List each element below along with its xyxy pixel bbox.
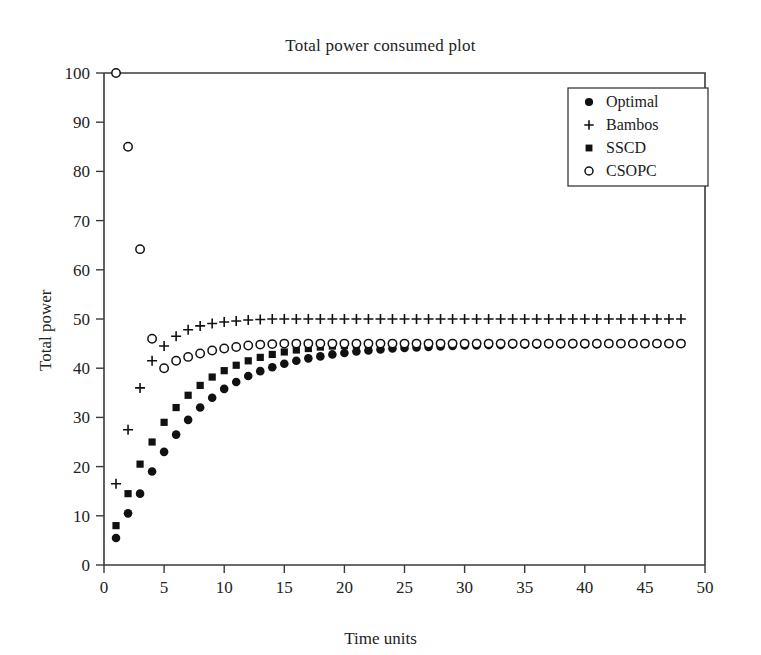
svg-text:20: 20 — [336, 578, 353, 597]
svg-text:40: 40 — [576, 578, 593, 597]
svg-text:40: 40 — [73, 359, 90, 378]
svg-text:0: 0 — [100, 578, 109, 597]
svg-text:70: 70 — [73, 212, 90, 231]
svg-text:60: 60 — [73, 261, 90, 280]
svg-text:10: 10 — [216, 578, 233, 597]
svg-text:15: 15 — [276, 578, 293, 597]
svg-text:80: 80 — [73, 162, 90, 181]
legend-label: SSCD — [606, 139, 646, 156]
svg-text:10: 10 — [73, 507, 90, 526]
legend-label: Optimal — [606, 93, 659, 111]
chart-figure: Total power consumed plot Total power Ti… — [0, 0, 761, 655]
svg-text:30: 30 — [73, 408, 90, 427]
svg-text:30: 30 — [456, 578, 473, 597]
svg-text:45: 45 — [636, 578, 653, 597]
svg-text:20: 20 — [73, 458, 90, 477]
legend-label: Bambos — [606, 116, 658, 133]
svg-text:100: 100 — [65, 64, 91, 83]
legend-label: CSOPC — [606, 162, 657, 179]
plot-area: 0102030405060708090100051015202530354045… — [0, 0, 761, 655]
legend: OptimalBambosSSCDCSOPC — [568, 88, 708, 186]
svg-text:35: 35 — [516, 578, 533, 597]
svg-text:25: 25 — [396, 578, 413, 597]
svg-text:50: 50 — [73, 310, 90, 329]
svg-text:90: 90 — [73, 113, 90, 132]
svg-text:50: 50 — [697, 578, 714, 597]
svg-text:0: 0 — [82, 556, 91, 575]
series-sscd — [112, 340, 684, 529]
svg-text:5: 5 — [160, 578, 169, 597]
series-optimal — [112, 339, 686, 542]
